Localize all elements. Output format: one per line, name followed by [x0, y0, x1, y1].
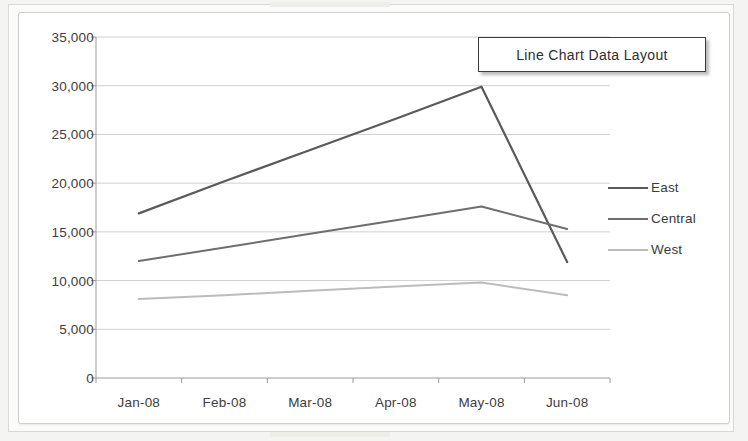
line-chart: 05,00010,00015,00020,00025,00030,00035,0… [0, 0, 748, 441]
legend-item-west[interactable]: West [608, 234, 718, 265]
y-axis-tick-label: 0 [20, 371, 94, 386]
chart-legend: EastCentralWest [608, 172, 718, 265]
legend-line-swatch-icon [608, 249, 648, 251]
y-axis-tick-label: 25,000 [20, 127, 94, 142]
series-line-west [139, 283, 567, 300]
y-axis-tick-label: 5,000 [20, 322, 94, 337]
legend-label: West [651, 242, 682, 257]
y-axis-tick-label: 30,000 [20, 78, 94, 93]
chart-title-text: Line Chart Data Layout [516, 47, 668, 63]
series-line-central [139, 207, 567, 262]
screenshot-root: 05,00010,00015,00020,00025,00030,00035,0… [0, 0, 748, 441]
x-axis-tick-label: Apr-08 [375, 395, 417, 410]
legend-label: East [651, 180, 679, 195]
legend-item-east[interactable]: East [608, 172, 718, 203]
legend-label: Central [651, 211, 696, 226]
y-axis-tick-labels: 05,00010,00015,00020,00025,00030,00035,0… [20, 0, 94, 441]
y-axis-tick-label: 15,000 [20, 224, 94, 239]
x-axis-tick-labels: Jan-08Feb-08Mar-08Apr-08May-08Jun-08 [0, 395, 748, 417]
legend-line-swatch-icon [608, 218, 648, 220]
x-axis-tick-label: Feb-08 [203, 395, 247, 410]
x-axis-tick-label: Mar-08 [288, 395, 332, 410]
y-axis-tick-label: 35,000 [20, 30, 94, 45]
legend-line-swatch-icon [608, 187, 648, 189]
x-axis-tick-label: Jun-08 [546, 395, 588, 410]
y-axis-tick-label: 20,000 [20, 176, 94, 191]
x-axis-tick-label: Jan-08 [118, 395, 160, 410]
chart-title-callout: Line Chart Data Layout [478, 37, 706, 72]
legend-item-central[interactable]: Central [608, 203, 718, 234]
series-line-east [139, 87, 567, 262]
y-axis-tick-label: 10,000 [20, 273, 94, 288]
x-axis-tick-label: May-08 [458, 395, 504, 410]
